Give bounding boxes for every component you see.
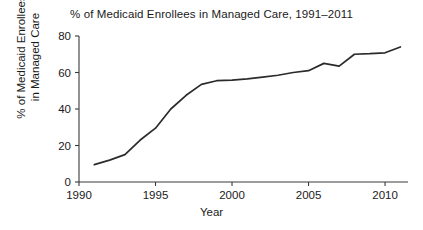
y-axis: 020406080 [58, 30, 79, 188]
y-tick-label: 20 [58, 140, 71, 152]
chart-figure: % of Medicaid Enrollees in Managed Care,… [0, 0, 423, 230]
x-tick-label: 1995 [143, 189, 169, 201]
y-tick-label: 40 [58, 103, 71, 115]
data-line [94, 47, 400, 165]
y-tick-label: 60 [58, 67, 71, 79]
y-tick-label: 0 [65, 176, 71, 188]
x-tick-label: 2010 [372, 189, 398, 201]
x-tick-label: 2005 [296, 189, 322, 201]
plot-area: 020406080 19901995200020052010 [0, 0, 423, 230]
data-series-group [94, 47, 400, 165]
x-tick-label: 1990 [66, 189, 92, 201]
x-axis: 19901995200020052010 [66, 182, 408, 201]
y-tick-label: 80 [58, 30, 71, 42]
x-tick-label: 2000 [219, 189, 245, 201]
